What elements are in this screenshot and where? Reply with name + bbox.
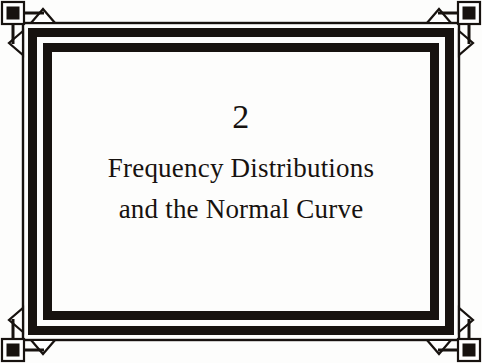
chapter-title-block: 2 Frequency Distributions and the Normal…: [60, 96, 422, 230]
chapter-title-page: 2 Frequency Distributions and the Normal…: [0, 0, 482, 363]
chapter-title-line-1: Frequency Distributions: [60, 148, 422, 189]
chapter-title-line-2: and the Normal Curve: [60, 189, 422, 230]
chapter-number: 2: [60, 96, 422, 138]
